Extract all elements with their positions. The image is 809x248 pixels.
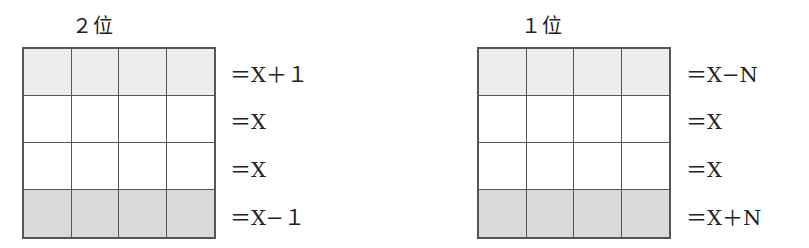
grid-cell [527, 143, 575, 190]
grid-cell [527, 49, 575, 96]
grid-cell [574, 49, 622, 96]
grid-cell [479, 96, 527, 143]
row-label-3: ＝X [686, 153, 722, 183]
row-label-4: ＝X＋N [686, 201, 761, 231]
diagram-rank-1: １位 ＝X−N ＝X ＝X ＝X＋N [0, 0, 809, 248]
grid-cell [622, 96, 670, 143]
row-label-2: ＝X [686, 105, 722, 135]
grid-cell [574, 143, 622, 190]
grid-cell [622, 49, 670, 96]
grid [477, 47, 671, 239]
grid-cell [479, 190, 527, 237]
grid-cell [574, 190, 622, 237]
grid-cell [479, 49, 527, 96]
grid-cell [574, 96, 622, 143]
grid-cell [527, 96, 575, 143]
grid-cell [622, 190, 670, 237]
grid-cell [527, 190, 575, 237]
grid-cell [479, 143, 527, 190]
diagram-title: １位 [521, 10, 563, 39]
grid-cell [622, 143, 670, 190]
row-label-1: ＝X−N [686, 58, 758, 88]
